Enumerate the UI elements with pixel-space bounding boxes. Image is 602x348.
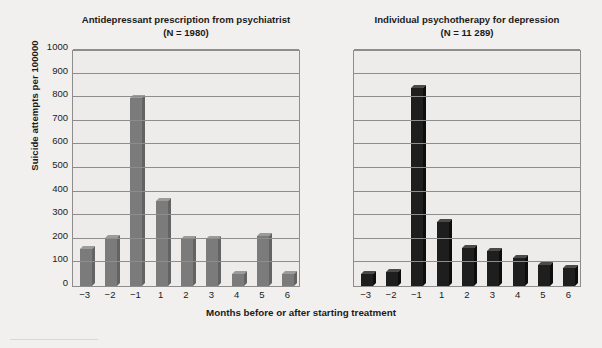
gridline-200	[354, 238, 580, 239]
y-tick-100: 100	[24, 253, 68, 264]
plot-panel-antidepressant	[72, 50, 300, 287]
gridline-1000	[73, 49, 299, 50]
bar-side	[373, 271, 376, 286]
x-tick--1: −1	[403, 289, 429, 300]
x-axis-title: Months before or after starting treatmen…	[151, 307, 451, 318]
bars-psychotherapy	[354, 51, 580, 286]
bar	[181, 239, 193, 286]
gridline-300	[73, 214, 299, 215]
x-tick--3: −3	[353, 289, 379, 300]
bar-side	[168, 198, 171, 286]
panel-title-antidepressant: Antidepressant prescription from psychia…	[36, 14, 336, 39]
x-tick-1: 1	[148, 289, 174, 300]
bar-side	[525, 255, 528, 286]
y-tick-600: 600	[24, 135, 68, 146]
bar-side	[294, 271, 297, 286]
y-tick-700: 700	[24, 111, 68, 122]
bars-antidepressant	[73, 51, 299, 286]
gridline-200	[73, 238, 299, 239]
y-tick-500: 500	[24, 159, 68, 170]
panel-title-line1: Antidepressant prescription from psychia…	[36, 14, 336, 27]
panel-title-line2: (N = 1980)	[36, 27, 336, 40]
panel-title-line1: Individual psychotherapy for depression	[317, 14, 602, 27]
y-tick-0: 0	[24, 277, 68, 288]
bar-face	[361, 274, 373, 286]
bar	[411, 88, 423, 286]
gridline-800	[354, 96, 580, 97]
bar-face	[563, 268, 575, 286]
x-axis-tick-labels-right: −3−2−1123456	[353, 289, 581, 305]
bar-face	[462, 248, 474, 286]
bar-side	[244, 271, 247, 286]
bar-face	[538, 265, 550, 286]
gridline-100	[354, 261, 580, 262]
x-tick-2: 2	[454, 289, 480, 300]
x-tick-4: 4	[224, 289, 250, 300]
bar-face	[130, 98, 142, 286]
bar	[487, 251, 499, 286]
bar-side	[575, 265, 578, 286]
bar	[232, 274, 244, 286]
x-tick-3: 3	[198, 289, 224, 300]
plot-panel-psychotherapy	[353, 50, 581, 287]
y-tick-200: 200	[24, 229, 68, 240]
panel-title-psychotherapy: Individual psychotherapy for depression …	[317, 14, 602, 39]
gridline-500	[354, 167, 580, 168]
x-axis-tick-labels-left: −3−2−1123456	[72, 289, 300, 305]
bar	[386, 272, 398, 286]
y-tick-800: 800	[24, 88, 68, 99]
bar-side	[499, 248, 502, 286]
bar	[462, 248, 474, 286]
bar	[282, 274, 294, 286]
bar-face	[282, 274, 294, 286]
x-tick-6: 6	[555, 289, 581, 300]
x-tick--2: −2	[97, 289, 123, 300]
bar-side	[550, 262, 553, 286]
bar	[361, 274, 373, 286]
bar-side	[92, 246, 95, 286]
footer-rule	[10, 339, 98, 340]
bar-side	[449, 219, 452, 286]
gridline-400	[73, 191, 299, 192]
gridline-500	[73, 167, 299, 168]
gridline-1000	[354, 49, 580, 50]
gridline-300	[354, 214, 580, 215]
gridline-700	[73, 120, 299, 121]
gridline-100	[73, 261, 299, 262]
x-tick--1: −1	[122, 289, 148, 300]
bar-side	[474, 245, 477, 286]
bar	[80, 249, 92, 286]
y-axis-tick-labels: 10009008007006005004003002001000	[24, 45, 68, 291]
bar-side	[117, 235, 120, 286]
bar	[538, 265, 550, 286]
x-tick-5: 5	[249, 289, 275, 300]
bar	[437, 222, 449, 286]
bar-face	[206, 239, 218, 286]
y-tick-900: 900	[24, 64, 68, 75]
bar	[563, 268, 575, 286]
x-tick-2: 2	[173, 289, 199, 300]
bar-face	[80, 249, 92, 286]
bar-face	[411, 88, 423, 286]
bar-side	[269, 233, 272, 286]
bar-face	[181, 239, 193, 286]
x-tick-4: 4	[505, 289, 531, 300]
x-tick-3: 3	[479, 289, 505, 300]
y-axis-title-wrap: Suicide attempts per 100000	[2, 40, 20, 290]
panel-title-line2: (N = 11 289)	[317, 27, 602, 40]
y-tick-1000: 1000	[24, 41, 68, 52]
gridline-900	[354, 73, 580, 74]
bar-face	[437, 222, 449, 286]
y-tick-400: 400	[24, 182, 68, 193]
gridline-400	[354, 191, 580, 192]
bar-side	[398, 269, 401, 286]
x-tick-6: 6	[274, 289, 300, 300]
x-tick--2: −2	[378, 289, 404, 300]
x-tick-5: 5	[530, 289, 556, 300]
bar-face	[487, 251, 499, 286]
bar-face	[232, 274, 244, 286]
bar-face	[386, 272, 398, 286]
gridline-900	[73, 73, 299, 74]
gridline-600	[73, 143, 299, 144]
gridline-700	[354, 120, 580, 121]
